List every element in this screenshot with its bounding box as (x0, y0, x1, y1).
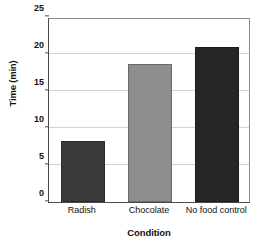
y-tick-label: 0 (39, 189, 49, 198)
plot-area: 0510152025 (48, 18, 250, 203)
y-tick-mark (45, 15, 49, 16)
bar (128, 64, 172, 202)
x-tick-label: Chocolate (115, 206, 182, 215)
y-tick-mark (45, 89, 49, 90)
x-axis-title: Condition (48, 227, 250, 238)
y-tick-label: 10 (34, 115, 49, 124)
y-tick-label: 15 (34, 78, 49, 87)
bar-chart-figure: Time (min) 0510152025 RadishChocolateNo … (0, 0, 263, 247)
bar (61, 141, 105, 202)
y-tick-label: 5 (39, 152, 49, 161)
y-tick-mark (45, 163, 49, 164)
y-axis-title: Time (min) (7, 39, 18, 129)
y-tick-label: 20 (34, 41, 49, 50)
x-tick-label: No food control (183, 206, 250, 215)
x-tick-label: Radish (48, 206, 115, 215)
y-tick-mark (45, 52, 49, 53)
bar (195, 47, 239, 202)
y-tick-mark (45, 126, 49, 127)
y-tick-mark (45, 200, 49, 201)
y-tick-label: 25 (34, 4, 49, 13)
